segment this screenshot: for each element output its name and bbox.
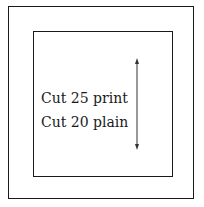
double-arrow-vertical-icon <box>132 58 142 150</box>
cut-print-label: Cut 25 print <box>41 90 128 106</box>
cut-plain-label: Cut 20 plain <box>41 114 128 130</box>
